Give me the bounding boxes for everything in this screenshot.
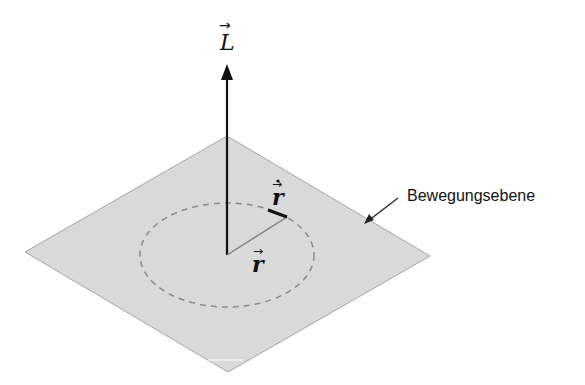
angular-momentum-label: L →	[219, 17, 235, 55]
position-label: r →	[252, 244, 265, 277]
plane-pointer-arrow	[368, 198, 398, 221]
vector-arrow-icon: →	[253, 244, 263, 258]
plane-label: Bewegungsebene	[407, 187, 535, 204]
physics-diagram: L → r → r → Bewegungsebene	[0, 0, 585, 385]
svg-text:L: L	[219, 30, 235, 55]
vector-arrow-icon: →	[272, 177, 282, 191]
vector-arrow-icon: →	[219, 17, 231, 33]
angular-momentum-arrowhead	[221, 64, 233, 80]
